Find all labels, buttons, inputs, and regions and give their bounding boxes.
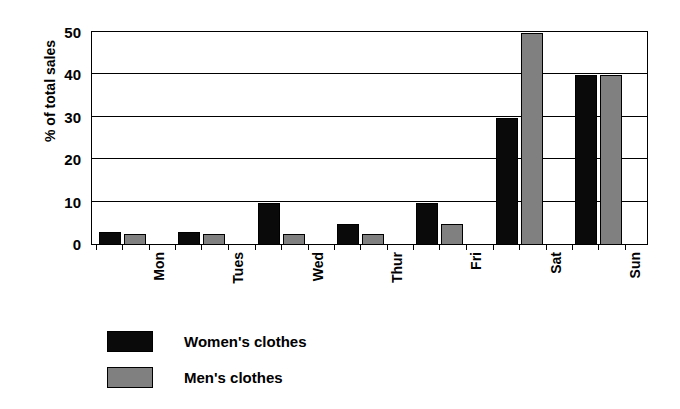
- bar-mon-women: [99, 232, 121, 245]
- x-tick: [493, 245, 494, 250]
- black-swatch-icon: [107, 331, 153, 352]
- x-axis-category-labels: MonTuesWedThurFriSatSun: [92, 252, 647, 312]
- y-tick-label-50: 50: [64, 25, 81, 40]
- legend-item-women: Women's clothes: [107, 328, 407, 354]
- x-tick: [625, 245, 626, 250]
- bar-sun-men: [600, 75, 622, 245]
- bar-sat-men: [521, 33, 543, 245]
- bar-fri-men: [441, 224, 463, 245]
- x-label-mon: Mon: [151, 252, 167, 322]
- y-tick-label-40: 40: [64, 67, 81, 82]
- legend-item-men: Men's clothes: [107, 364, 407, 390]
- x-tick: [387, 245, 388, 250]
- chart-legend: Women's clothes Men's clothes: [107, 328, 407, 400]
- legend-item-label: Women's clothes: [184, 333, 306, 350]
- x-tick: [175, 245, 176, 250]
- x-tick: [466, 245, 467, 250]
- y-tick-label-20: 20: [64, 152, 81, 167]
- bar-chart: % of total sales 01020304050 MonTuesWedT…: [0, 0, 680, 409]
- x-tick: [519, 245, 520, 250]
- x-tick: [228, 245, 229, 250]
- x-tick: [201, 245, 202, 250]
- y-tick-label-30: 30: [64, 109, 81, 124]
- x-tick: [334, 245, 335, 250]
- bar-thur-women: [337, 224, 359, 245]
- bar-thur-men: [362, 234, 384, 245]
- x-tick: [546, 245, 547, 250]
- x-label-sat: Sat: [548, 252, 564, 322]
- bar-mon-men: [124, 234, 146, 245]
- x-tick: [439, 245, 440, 250]
- bar-sun-women: [575, 75, 597, 245]
- bar-fri-women: [416, 203, 438, 245]
- x-tick: [308, 245, 309, 250]
- bar-tues-men: [203, 234, 225, 245]
- x-label-fri: Fri: [468, 252, 484, 322]
- x-label-wed: Wed: [310, 252, 326, 322]
- bar-wed-men: [283, 234, 305, 245]
- x-tick: [255, 245, 256, 250]
- x-tick: [281, 245, 282, 250]
- x-tick: [572, 245, 573, 250]
- y-axis-tick-labels: 01020304050: [0, 0, 91, 276]
- legend-item-label: Men's clothes: [184, 369, 283, 386]
- bar-wed-women: [258, 203, 280, 245]
- x-label-sun: Sun: [627, 252, 643, 322]
- y-tick-label-10: 10: [64, 194, 81, 209]
- x-tick: [598, 245, 599, 250]
- x-label-tues: Tues: [230, 252, 246, 322]
- x-tick: [149, 245, 150, 250]
- y-tick-label-0: 0: [73, 237, 81, 252]
- x-tick: [360, 245, 361, 250]
- gray-swatch-icon: [107, 367, 153, 388]
- bar-tues-women: [178, 232, 200, 245]
- x-tick: [96, 245, 97, 250]
- x-axis-ticks: [92, 245, 647, 251]
- bars-layer: [92, 32, 647, 245]
- bar-sat-women: [496, 118, 518, 245]
- x-tick: [413, 245, 414, 250]
- x-tick: [122, 245, 123, 250]
- x-label-thur: Thur: [389, 252, 405, 322]
